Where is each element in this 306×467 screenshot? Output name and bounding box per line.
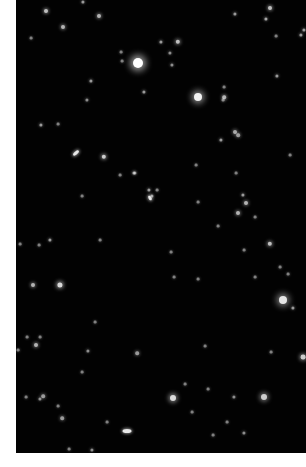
star bbox=[261, 394, 267, 400]
galaxy bbox=[72, 150, 79, 157]
star bbox=[170, 251, 173, 254]
star bbox=[173, 276, 176, 279]
star bbox=[81, 0, 84, 3]
star bbox=[31, 283, 35, 287]
star bbox=[195, 164, 198, 167]
star bbox=[39, 123, 42, 126]
star bbox=[85, 98, 88, 101]
star bbox=[176, 40, 180, 44]
star bbox=[34, 343, 38, 347]
star bbox=[268, 242, 272, 246]
star bbox=[147, 188, 150, 191]
star bbox=[217, 225, 220, 228]
star bbox=[233, 12, 236, 15]
star bbox=[222, 95, 226, 99]
star bbox=[299, 33, 302, 36]
star bbox=[156, 189, 159, 192]
star bbox=[264, 17, 267, 20]
star bbox=[30, 37, 33, 40]
star bbox=[121, 60, 124, 63]
star bbox=[170, 63, 173, 66]
star bbox=[89, 79, 92, 82]
star bbox=[17, 349, 20, 352]
star bbox=[194, 93, 202, 101]
star bbox=[222, 99, 225, 102]
star bbox=[197, 201, 200, 204]
galaxy bbox=[123, 429, 132, 433]
star bbox=[170, 395, 176, 401]
stars-layer bbox=[0, 0, 306, 467]
star bbox=[275, 74, 278, 77]
star bbox=[191, 411, 194, 414]
star bbox=[207, 388, 210, 391]
star bbox=[38, 244, 41, 247]
star bbox=[25, 396, 28, 399]
star bbox=[57, 123, 60, 126]
star bbox=[41, 394, 45, 398]
star bbox=[243, 249, 246, 252]
star bbox=[197, 278, 200, 281]
star bbox=[184, 383, 187, 386]
star bbox=[244, 201, 248, 205]
star bbox=[232, 395, 235, 398]
star bbox=[106, 421, 109, 424]
star bbox=[26, 336, 29, 339]
star bbox=[90, 448, 93, 451]
star bbox=[39, 336, 42, 339]
star bbox=[212, 434, 215, 437]
star bbox=[102, 155, 106, 159]
star bbox=[99, 239, 102, 242]
star bbox=[279, 296, 287, 304]
star bbox=[242, 431, 245, 434]
star bbox=[223, 86, 226, 89]
star bbox=[159, 40, 162, 43]
star bbox=[268, 6, 272, 10]
star bbox=[289, 154, 292, 157]
star bbox=[133, 58, 143, 68]
star bbox=[19, 243, 22, 246]
star bbox=[94, 321, 97, 324]
star bbox=[57, 282, 62, 287]
star bbox=[135, 351, 139, 355]
star bbox=[44, 9, 48, 13]
star bbox=[38, 397, 41, 400]
star bbox=[68, 448, 71, 451]
star bbox=[97, 14, 101, 18]
star bbox=[61, 25, 65, 29]
star bbox=[57, 405, 60, 408]
star bbox=[254, 216, 257, 219]
star bbox=[301, 355, 306, 360]
star bbox=[60, 416, 64, 420]
star bbox=[81, 371, 84, 374]
star bbox=[302, 28, 305, 31]
star bbox=[120, 51, 123, 54]
star bbox=[204, 345, 207, 348]
star bbox=[142, 90, 145, 93]
star bbox=[236, 211, 240, 215]
star bbox=[254, 276, 257, 279]
star bbox=[241, 193, 244, 196]
star bbox=[226, 421, 229, 424]
star bbox=[168, 51, 171, 54]
star bbox=[279, 266, 282, 269]
star bbox=[235, 172, 238, 175]
star bbox=[236, 133, 240, 137]
star bbox=[291, 306, 294, 309]
star bbox=[48, 238, 51, 241]
star bbox=[86, 349, 89, 352]
star bbox=[81, 195, 84, 198]
star bbox=[275, 35, 278, 38]
star bbox=[270, 351, 273, 354]
star bbox=[119, 174, 122, 177]
star bbox=[287, 273, 290, 276]
star bbox=[219, 138, 222, 141]
